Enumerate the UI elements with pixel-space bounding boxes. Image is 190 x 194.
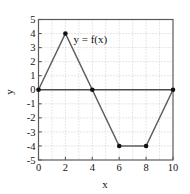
data-point-marker: [36, 87, 41, 92]
chart-figure: 543210-1-2-3-4-5 0246810 y x y = f(x): [0, 0, 190, 194]
data-point-marker: [144, 144, 149, 149]
y-tick-label: 0: [30, 84, 35, 95]
y-axis-title: y: [3, 89, 15, 95]
y-tick-label: -3: [27, 127, 36, 138]
y-tick-label: 4: [30, 28, 36, 39]
x-tick-label: 2: [63, 162, 68, 173]
y-tick-label: -1: [27, 98, 36, 109]
x-tick-label: 6: [117, 162, 122, 173]
x-tick-label: 10: [168, 162, 179, 173]
y-tick-label: 1: [30, 70, 35, 81]
y-tick-label: -5: [27, 155, 36, 166]
y-tick-label: 3: [30, 42, 35, 53]
data-point-marker: [117, 144, 122, 149]
y-tick-label: 2: [30, 56, 35, 67]
x-tick-label: 0: [36, 162, 41, 173]
data-point-marker: [63, 31, 68, 36]
y-tick-label: -4: [27, 141, 36, 152]
x-tick-label: 4: [90, 162, 96, 173]
x-tick-label: 8: [143, 162, 148, 173]
x-axis-title: x: [102, 178, 108, 190]
y-tick-label: -2: [27, 112, 36, 123]
data-point-marker: [171, 87, 176, 92]
series-annotation-label: y = f(x): [73, 33, 107, 46]
y-tick-label: 5: [30, 14, 35, 25]
data-point-marker: [90, 87, 95, 92]
function-plot-chart: 543210-1-2-3-4-5 0246810 y x y = f(x): [0, 0, 190, 194]
